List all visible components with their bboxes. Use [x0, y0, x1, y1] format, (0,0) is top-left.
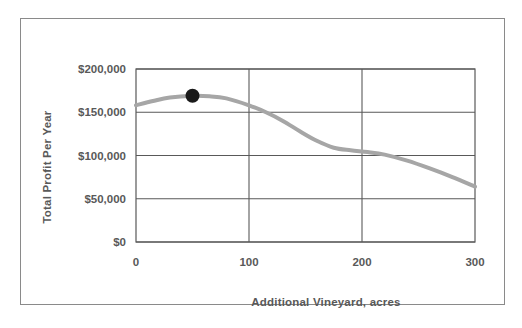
profit-curve — [136, 96, 475, 187]
x-axis-title: Additional Vineyard, acres — [251, 296, 400, 308]
x-tick-label: 0 — [133, 256, 139, 268]
x-tick-label: 300 — [465, 256, 484, 268]
y-tick-label: $0 — [113, 236, 126, 248]
optimum-point-marker — [186, 89, 200, 103]
chart-figure-frame: Total Profit Per Year Additional Vineyar… — [20, 18, 505, 305]
y-axis-title: Total Profit Per Year — [41, 110, 53, 223]
x-tick-label: 100 — [239, 256, 258, 268]
y-tick-label: $100,000 — [78, 150, 126, 162]
y-tick-label: $200,000 — [78, 63, 126, 75]
y-tick-label: $150,000 — [78, 106, 126, 118]
x-tick-label: 200 — [352, 256, 371, 268]
y-tick-label: $50,000 — [84, 193, 126, 205]
